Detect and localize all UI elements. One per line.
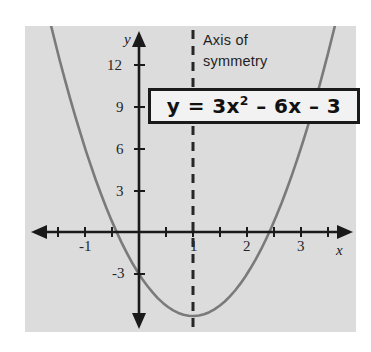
x-tick-label-2: 2: [243, 239, 251, 254]
y-tick-label-6: 6: [116, 142, 124, 157]
equation-text: y = 3x2 – 6x – 3: [167, 94, 341, 118]
x-tick-label-1: 1: [190, 239, 198, 254]
equation-lhs: y: [167, 94, 180, 118]
axis-of-symmetry-annotation: Axis of symmetry: [203, 30, 343, 71]
x-tick-label-neg1: -1: [79, 239, 92, 254]
equation-equals: =: [188, 94, 205, 118]
y-axis-label: y: [124, 32, 131, 47]
equation-term1-variable: x: [227, 94, 240, 118]
annotation-line-2: symmetry: [203, 51, 343, 72]
equation-term1-coefficient: 3: [212, 94, 226, 118]
x-tick-label-3: 3: [297, 239, 305, 254]
y-tick-label-3: 3: [116, 184, 124, 199]
x-axis-label: x: [336, 243, 343, 258]
y-tick-label-neg3: -3: [112, 266, 125, 281]
graph-figure: 12 9 6 3 -3 -1 1 2 3 y x Axis of symmetr…: [0, 0, 371, 352]
annotation-line-1: Axis of: [203, 30, 343, 51]
y-tick-label-12: 12: [107, 58, 122, 73]
y-axis: [132, 31, 146, 329]
equation-term3: – 3: [309, 94, 341, 118]
equation-term1-exponent: 2: [240, 93, 249, 108]
equation-box: y = 3x2 – 6x – 3: [148, 88, 360, 124]
equation-term2: – 6x: [256, 94, 301, 118]
y-tick-label-9: 9: [116, 100, 124, 115]
